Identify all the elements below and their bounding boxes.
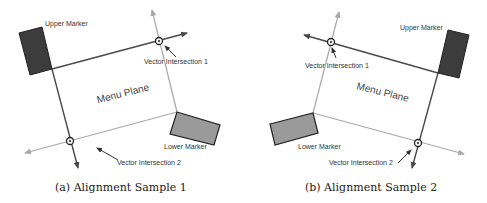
intersection-1-label: Vector Intersection 1 — [144, 58, 208, 65]
pointer-arrow-1 — [165, 46, 176, 57]
caption-a: (a) Alignment Sample 1 — [55, 181, 187, 194]
panel-b: Upper Marker Vector Intersection 1 Lower… — [270, 12, 469, 194]
panel-a: Upper Marker Vector Intersection 1 Lower… — [19, 10, 220, 194]
intersection-1-icon — [328, 39, 335, 46]
lower-marker — [170, 112, 220, 145]
pointer-arrow-1 — [332, 48, 336, 58]
upper-marker-label: Upper Marker — [45, 20, 88, 28]
pointer-arrow-2 — [97, 148, 118, 160]
lower-marker-label: Lower Marker — [298, 143, 341, 150]
upper-marker — [438, 30, 469, 78]
pointer-arrow-2 — [398, 150, 411, 163]
intersection-2-icon — [415, 140, 422, 147]
lower-marker-label: Lower Marker — [164, 143, 207, 150]
dark-vector-down — [412, 73, 438, 168]
intersection-2-icon — [67, 138, 74, 145]
menu-plane-label: Menu Plane — [356, 80, 411, 104]
caption-b: (b) Alignment Sample 2 — [305, 181, 437, 194]
intersection-2-label: Vector Intersection 2 — [329, 159, 393, 166]
light-vector-left — [25, 112, 177, 153]
menu-plane-label: Menu Plane — [96, 81, 151, 105]
intersection-1-icon — [156, 38, 163, 45]
intersection-2-label: Vector Intersection 2 — [117, 159, 181, 166]
intersection-1-label: Vector Intersection 1 — [305, 62, 369, 69]
upper-marker — [19, 27, 52, 75]
alignment-diagram: Upper Marker Vector Intersection 1 Lower… — [0, 0, 487, 203]
dark-vector-down — [52, 69, 78, 168]
upper-marker-label: Upper Marker — [400, 24, 443, 32]
lower-marker — [270, 113, 318, 145]
